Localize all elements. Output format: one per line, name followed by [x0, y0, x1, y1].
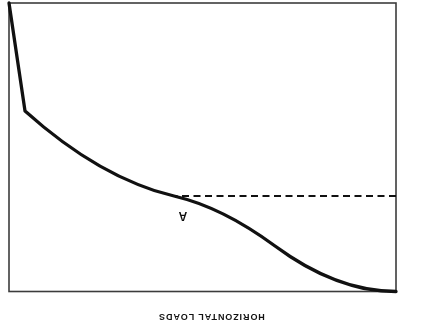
point-a-label: A: [178, 209, 187, 223]
rotated-scan-figure: A HORIZONTAL LOADS: [0, 0, 423, 324]
figure-root: A HORIZONTAL LOADS: [0, 0, 423, 324]
x-axis-label: HORIZONTAL LOADS: [0, 312, 423, 322]
chart-plot-area: A: [0, 0, 423, 324]
plot-border: [9, 3, 396, 292]
